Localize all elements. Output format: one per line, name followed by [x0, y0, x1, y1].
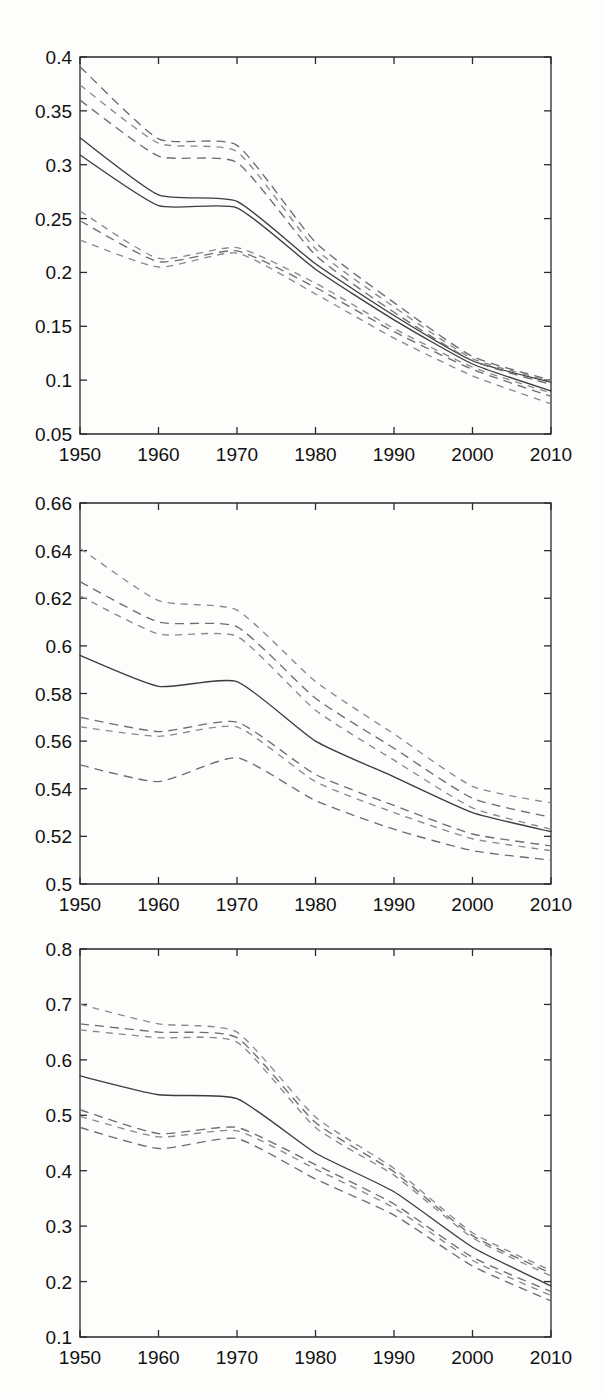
y-axis-tick-label: 0.6 — [46, 636, 72, 657]
x-axis-tick-label: 1970 — [216, 894, 258, 915]
x-axis-tick-label: 1970 — [216, 1347, 258, 1368]
y-axis-tick-label: 0.25 — [35, 209, 72, 230]
series-lower-c — [80, 758, 551, 860]
series-upper-b — [80, 85, 551, 381]
series-upper-a — [80, 548, 551, 803]
y-axis-tick-label: 0.66 — [35, 493, 72, 514]
x-axis-tick-label: 1990 — [373, 894, 415, 915]
x-axis-tick-label: 1950 — [59, 444, 101, 465]
y-axis-tick-label: 0.3 — [46, 155, 72, 176]
series-estimate — [80, 1076, 551, 1286]
y-axis-tick-label: 0.7 — [46, 994, 72, 1015]
y-axis-tick-label: 0.62 — [35, 588, 72, 609]
y-axis-tick-label: 0.1 — [46, 1327, 72, 1348]
y-axis-tick-label: 0.2 — [46, 1272, 72, 1293]
y-axis-tick-label: 0.56 — [35, 731, 72, 752]
y-axis-tick-label: 0.4 — [46, 47, 73, 68]
y-axis-tick-label: 0.54 — [35, 779, 72, 800]
y-axis-tick-label: 0.52 — [35, 826, 72, 847]
series-upper-b — [80, 582, 551, 818]
x-axis-tick-label: 1980 — [294, 894, 336, 915]
x-axis-tick-label: 1950 — [59, 894, 101, 915]
series-estimate — [80, 655, 551, 831]
series-upper-c — [80, 596, 551, 829]
series-upper-a — [80, 67, 551, 380]
y-axis-tick-label: 0.15 — [35, 316, 72, 337]
series-estimate-a — [80, 138, 551, 383]
x-axis-tick-label: 1990 — [373, 1347, 415, 1368]
y-axis-tick-label: 0.3 — [46, 1216, 72, 1237]
x-axis-tick-label: 1960 — [137, 444, 179, 465]
y-axis-tick-label: 0.5 — [46, 1105, 72, 1126]
series-lower-a — [80, 211, 551, 393]
series-lower-b — [80, 726, 551, 851]
plot-2: 0.50.520.540.560.580.60.620.640.66195019… — [0, 478, 604, 928]
x-axis-tick-label: 2010 — [530, 1347, 572, 1368]
y-axis-tick-label: 0.05 — [35, 424, 72, 445]
series-upper-c — [80, 100, 551, 384]
x-axis-tick-label: 2000 — [451, 444, 493, 465]
x-axis-tick-label: 2010 — [530, 894, 572, 915]
plot-3: 0.10.20.30.40.50.60.70.81950196019701980… — [0, 928, 604, 1398]
x-axis-tick-label: 1990 — [373, 444, 415, 465]
x-axis-tick-label: 1970 — [216, 444, 258, 465]
series-upper-b — [80, 1024, 551, 1273]
y-axis-tick-label: 0.2 — [46, 262, 72, 283]
y-axis-tick-label: 0.1 — [46, 370, 72, 391]
y-axis-tick-label: 0.5 — [46, 874, 72, 895]
series-upper-a — [80, 1004, 551, 1270]
series-lower-c — [80, 240, 551, 404]
y-axis-tick-label: 0.4 — [46, 1161, 73, 1182]
x-axis-tick-label: 2000 — [451, 894, 493, 915]
x-axis-tick-label: 1960 — [137, 894, 179, 915]
x-axis-tick-label: 1980 — [294, 444, 336, 465]
x-axis-tick-label: 2000 — [451, 1347, 493, 1368]
figure-page: 0.050.10.150.20.250.30.350.4195019601970… — [0, 0, 604, 1398]
series-lower-b — [80, 1116, 551, 1295]
x-axis-tick-label: 2010 — [530, 444, 572, 465]
axis-frame — [80, 503, 551, 884]
x-axis-tick-label: 1980 — [294, 1347, 336, 1368]
y-axis-tick-label: 0.6 — [46, 1050, 72, 1071]
y-axis-tick-label: 0.35 — [35, 101, 72, 122]
axis-frame — [80, 57, 551, 434]
chart-panel-1: 0.050.10.150.20.250.30.350.4195019601970… — [0, 0, 604, 478]
axis-frame — [80, 949, 551, 1337]
y-axis-tick-label: 0.64 — [35, 541, 72, 562]
plot-1: 0.050.10.150.20.250.30.350.4195019601970… — [0, 0, 604, 478]
series-lower-a — [80, 1110, 551, 1292]
x-axis-tick-label: 1950 — [59, 1347, 101, 1368]
y-axis-tick-label: 0.58 — [35, 684, 72, 705]
x-axis-tick-label: 1960 — [137, 1347, 179, 1368]
chart-panel-3: 0.10.20.30.40.50.60.70.81950196019701980… — [0, 928, 604, 1398]
chart-panel-2: 0.50.520.540.560.580.60.620.640.66195019… — [0, 478, 604, 928]
y-axis-tick-label: 0.8 — [46, 939, 72, 960]
